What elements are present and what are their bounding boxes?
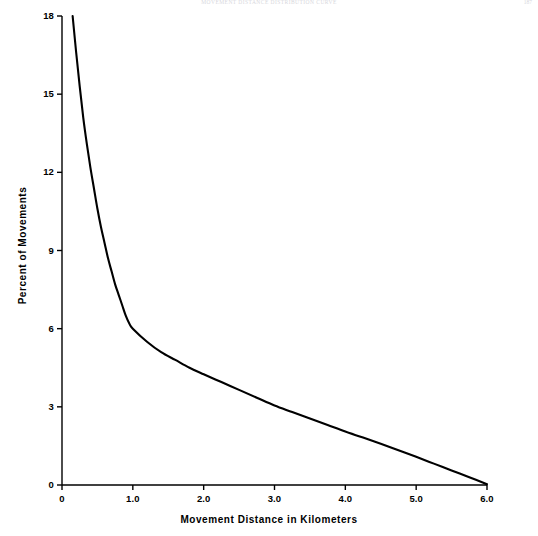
x-tick-label: 3.0 [255, 493, 295, 504]
y-tick-label: 0 [24, 479, 54, 490]
y-tick-label: 9 [24, 245, 54, 256]
x-tick-label: 0 [42, 493, 82, 504]
x-tick-label: 2.0 [184, 493, 224, 504]
figure-page: Movement Distance Distribution Curve 187… [0, 0, 538, 536]
chart-svg [0, 0, 538, 536]
chart-axes [57, 16, 487, 490]
y-axis-title: Percent of Movements [17, 136, 28, 356]
data-curve [73, 16, 487, 484]
y-tick-label: 12 [24, 166, 54, 177]
x-tick-label: 4.0 [325, 493, 365, 504]
y-tick-label: 6 [24, 323, 54, 334]
x-axis-title: Movement Distance in Kilometers [0, 514, 538, 525]
x-tick-label: 1.0 [113, 493, 153, 504]
y-tick-label: 18 [24, 10, 54, 21]
x-tick-label: 5.0 [396, 493, 436, 504]
x-tick-label: 6.0 [467, 493, 507, 504]
y-tick-label: 15 [24, 88, 54, 99]
y-tick-label: 3 [24, 401, 54, 412]
chart-plot-area: 036912151801.02.03.04.05.06.0 [0, 0, 538, 536]
